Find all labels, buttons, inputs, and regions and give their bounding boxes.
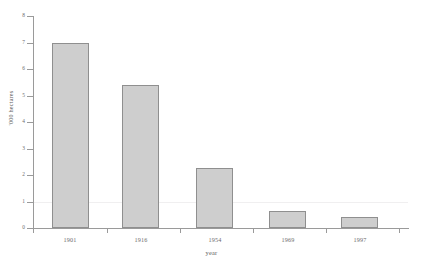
y-tick-3 bbox=[27, 149, 33, 150]
x-tick-4 bbox=[326, 229, 327, 233]
y-tick-8 bbox=[27, 16, 33, 17]
y-tick-label-0: 0 bbox=[7, 225, 25, 230]
x-tick-label-1901: 1901 bbox=[40, 236, 100, 244]
bar-1916 bbox=[122, 85, 159, 228]
y-tick-label-8-wrap: 8 bbox=[5, 13, 25, 20]
x-tick-label-1916: 1916 bbox=[111, 236, 171, 244]
y-axis-title: '000 hectares bbox=[7, 78, 15, 138]
x-axis-line bbox=[33, 228, 409, 229]
y-tick-label-8: 8 bbox=[7, 13, 25, 18]
y-axis-line bbox=[33, 16, 34, 229]
bar-chart-figure: 8 7 6 5 4 3 2 1 0 1901 1916 195 bbox=[0, 0, 423, 269]
x-axis-title: year bbox=[0, 249, 423, 257]
bar-1954 bbox=[196, 168, 233, 228]
x-tick-label-1954: 1954 bbox=[185, 236, 245, 244]
y-tick-label-6-wrap: 6 bbox=[5, 66, 25, 73]
y-tick-label-7-wrap: 7 bbox=[5, 40, 25, 47]
x-tick-5 bbox=[399, 229, 400, 233]
x-tick-3 bbox=[253, 229, 254, 233]
x-tick-label-1997: 1997 bbox=[330, 236, 390, 244]
y-tick-label-7: 7 bbox=[7, 40, 25, 45]
x-tick-2 bbox=[180, 229, 181, 233]
y-tick-4 bbox=[27, 122, 33, 123]
y-tick-7 bbox=[27, 43, 33, 44]
y-tick-2 bbox=[27, 175, 33, 176]
x-tick-label-1969: 1969 bbox=[258, 236, 318, 244]
y-tick-6 bbox=[27, 69, 33, 70]
x-tick-0 bbox=[33, 229, 34, 233]
y-tick-label-6: 6 bbox=[7, 66, 25, 71]
y-tick-label-3-wrap: 3 bbox=[5, 146, 25, 153]
y-tick-5 bbox=[27, 96, 33, 97]
y-tick-label-1-wrap: 1 bbox=[5, 199, 25, 206]
y-tick-label-2: 2 bbox=[7, 172, 25, 177]
y-tick-label-2-wrap: 2 bbox=[5, 172, 25, 179]
y-tick-1 bbox=[27, 202, 33, 203]
bar-1997 bbox=[341, 217, 378, 228]
y-tick-label-0-wrap: 0 bbox=[5, 225, 25, 232]
bar-1969 bbox=[269, 211, 306, 228]
bar-1901 bbox=[52, 43, 89, 229]
y-tick-label-3: 3 bbox=[7, 146, 25, 151]
y-tick-label-1: 1 bbox=[7, 199, 25, 204]
x-tick-1 bbox=[107, 229, 108, 233]
